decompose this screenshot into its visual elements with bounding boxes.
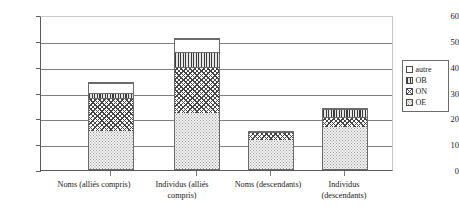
bar-segment-oe: [175, 113, 219, 169]
legend-item-autre[interactable]: autre: [406, 64, 446, 75]
x-axis-label-noms-allies-compris: Noms (alliés compris): [56, 180, 132, 191]
bar-segment-on: [249, 132, 293, 139]
x-tick-mark-0: [110, 171, 111, 176]
legend-swatch-on-icon: [406, 88, 413, 95]
legend-item-oe[interactable]: OE: [406, 97, 446, 108]
legend-swatch-ob-icon: [406, 77, 413, 84]
bar-segment-autre: [89, 83, 133, 93]
legend-label-ob: OB: [416, 77, 427, 85]
bar-segment-oe: [323, 127, 367, 169]
x-tick-mark-3: [344, 171, 345, 176]
y-tick-label-60: 60: [425, 12, 459, 21]
bar-segment-ob: [175, 52, 219, 67]
bar-segment-ob: [323, 109, 367, 117]
bar-individus-allies-compris[interactable]: [174, 38, 220, 170]
bar-segment-oe: [89, 131, 133, 169]
x-axis-label-individus-descendants: Individus (descendants): [306, 180, 382, 201]
bar-segment-on: [323, 117, 367, 127]
legend-swatch-autre-icon: [406, 66, 413, 73]
stacked-bar-chart: 0 10 20 30 40 50 60 Noms (alliés compris…: [0, 0, 459, 214]
y-tick-mark-0: [36, 171, 41, 172]
bar-segment-on: [89, 98, 133, 131]
x-axis-label-noms-descendants: Noms (descendants): [222, 180, 314, 191]
bar-segment-on: [175, 67, 219, 113]
legend-item-on[interactable]: ON: [406, 86, 446, 97]
x-tick-mark-2: [270, 171, 271, 176]
bar-noms-descendants[interactable]: [248, 131, 294, 170]
legend-label-oe: OE: [416, 99, 427, 107]
bar-segment-autre: [175, 39, 219, 52]
x-axis-label-individus-allies-compris: Individus (alliés compris): [140, 180, 224, 201]
bar-segment-oe: [249, 140, 293, 169]
y-tick-label-20: 20: [425, 115, 459, 124]
plot-area: [40, 16, 393, 171]
legend-label-autre: autre: [416, 66, 432, 74]
y-tick-label-0: 0: [425, 167, 459, 176]
legend-swatch-oe-icon: [406, 99, 413, 106]
legend-label-on: ON: [416, 88, 428, 96]
legend: autreOBONOE: [402, 60, 449, 112]
bar-noms-allies-compris[interactable]: [88, 82, 134, 170]
y-tick-label-50: 50: [425, 38, 459, 47]
bar-individus-descendants[interactable]: [322, 108, 368, 170]
legend-item-ob[interactable]: OB: [406, 75, 446, 86]
y-tick-label-10: 10: [425, 141, 459, 150]
x-tick-mark-1: [196, 171, 197, 176]
